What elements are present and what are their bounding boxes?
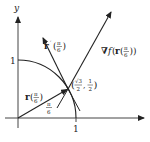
point-label: ( √3 2 , 1 2 ) <box>71 78 98 92</box>
svg-text:2: 2 <box>89 86 93 92</box>
svg-text:): ) <box>94 79 98 90</box>
svg-text:(: ( <box>120 46 124 56</box>
gradient-tangent-diagram: y 1 1 r ′ ( π 6 ) ∇ f ( r ( π 6 )) r ( π… <box>0 0 150 142</box>
gradient-vector-label: ∇ f ( r ( π 6 )) <box>101 45 137 58</box>
svg-text:6: 6 <box>57 47 61 53</box>
svg-text:√3: √3 <box>75 78 83 84</box>
svg-text:∇: ∇ <box>101 46 108 56</box>
svg-text:π: π <box>124 45 128 51</box>
svg-text:(: ( <box>53 41 57 51</box>
tangent-line-extension <box>68 89 80 111</box>
angle-label: π 6 <box>46 101 52 115</box>
svg-text:r: r <box>44 41 49 51</box>
svg-text:6: 6 <box>47 109 51 115</box>
position-vector-label: r ( π 6 ) <box>25 91 43 104</box>
svg-text:2: 2 <box>77 86 81 92</box>
y-axis-label: y <box>13 3 20 13</box>
svg-text:): ) <box>63 41 67 51</box>
svg-text:π: π <box>57 40 61 46</box>
svg-text:′: ′ <box>50 39 52 46</box>
svg-text:(: ( <box>30 92 34 102</box>
svg-text:π: π <box>34 91 38 97</box>
x-tick-label-1: 1 <box>73 124 79 134</box>
svg-text:)): )) <box>130 46 137 56</box>
svg-text:6: 6 <box>124 52 128 58</box>
y-tick-label-1: 1 <box>10 56 16 66</box>
svg-text:1: 1 <box>89 78 93 84</box>
svg-text:,: , <box>83 81 86 90</box>
tangent-vector-label: r ′ ( π 6 ) <box>44 39 66 53</box>
svg-text:): ) <box>40 92 44 102</box>
svg-text:6: 6 <box>34 98 38 104</box>
svg-text:π: π <box>47 101 51 107</box>
